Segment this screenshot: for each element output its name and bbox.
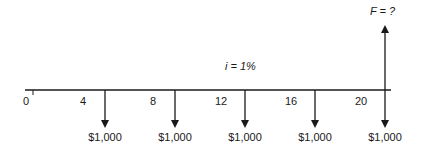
period-zero-label: 0 xyxy=(23,95,29,107)
period-tick-label: 16 xyxy=(285,95,297,107)
cash-flow-diagram xyxy=(0,0,422,153)
period-tick-label: 8 xyxy=(150,95,156,107)
interest-rate-text: i = 1% xyxy=(225,60,256,72)
payment-label: $1,000 xyxy=(158,131,192,143)
payment-label: $1,000 xyxy=(298,131,332,143)
period-tick-label: 4 xyxy=(80,95,86,107)
period-tick-label: 12 xyxy=(215,95,227,107)
future-value-arrow xyxy=(381,25,389,90)
future-value-label: F = ? xyxy=(370,5,395,17)
payment-label: $1,000 xyxy=(228,131,262,143)
payment-label: $1,000 xyxy=(88,131,122,143)
interest-rate-label: i = 1% xyxy=(225,60,256,72)
payment-label: $1,000 xyxy=(368,131,402,143)
payment-arrows xyxy=(101,90,389,128)
period-tick-label: 20 xyxy=(355,95,367,107)
